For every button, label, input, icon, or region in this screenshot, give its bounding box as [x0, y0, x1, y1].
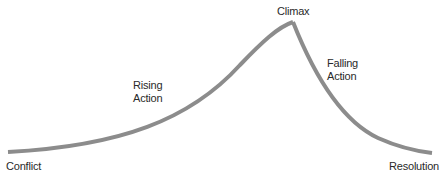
climax-text: Climax — [277, 5, 309, 18]
plot-arc-diagram — [0, 0, 442, 184]
conflict-text: Conflict — [6, 160, 41, 173]
rising-action-line1: Rising — [133, 79, 162, 92]
resolution-label: Resolution — [389, 160, 439, 173]
falling-action-line1: Falling — [327, 57, 358, 70]
resolution-text: Resolution — [389, 160, 439, 173]
rising-action-label: Rising Action — [133, 79, 162, 105]
falling-action-label: Falling Action — [327, 57, 358, 83]
falling-action-curve — [293, 22, 432, 153]
climax-label: Climax — [277, 5, 309, 18]
falling-action-line2: Action — [327, 70, 358, 83]
conflict-label: Conflict — [6, 160, 41, 173]
rising-action-line2: Action — [133, 92, 162, 105]
